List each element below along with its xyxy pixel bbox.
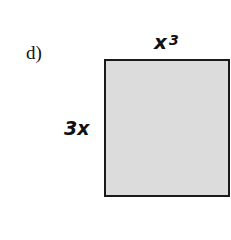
- part-label: d): [26, 42, 42, 64]
- left-side-label: 3x: [64, 117, 89, 139]
- rectangle-shape: [104, 59, 230, 197]
- top-side-exponent: 3: [169, 32, 179, 48]
- top-side-label: x3: [154, 30, 179, 54]
- top-side-base: x: [154, 30, 167, 54]
